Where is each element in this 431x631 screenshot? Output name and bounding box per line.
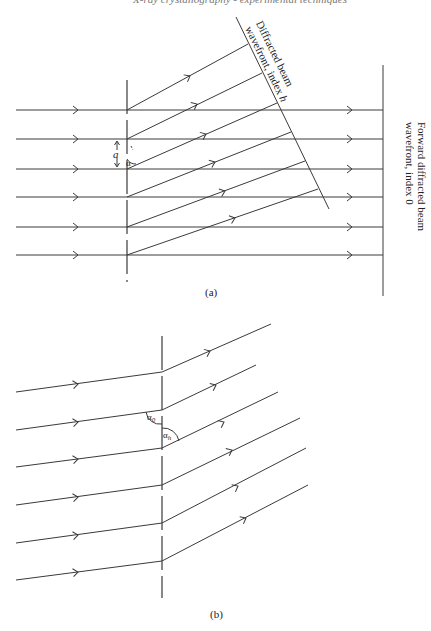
diffracted-wavefront-line [236,17,329,209]
svg-text:wavefront, index 0: wavefront, index 0 [404,122,416,205]
forward-rays [16,106,383,259]
svg-text:Forward diffracted beam: Forward diffracted beam [416,122,428,232]
caption-a: (a) [205,286,218,299]
forward-wavefront-label: Forward diffracted beam wavefront, index… [404,122,428,232]
outgoing-rays [162,324,308,561]
spacing-indicator: a [113,141,120,167]
panel-b: α0 αh (b) [16,324,308,621]
spacing-label: a [113,148,119,160]
angle-label-alpha: α [126,158,131,168]
panel-a: a α Diffracted beam wavefront, index h F… [16,17,428,299]
incoming-rays [16,372,162,580]
angle-label-alpha-0: α0 [147,412,156,424]
diagram-canvas: a α Diffracted beam wavefront, index h F… [0,0,431,631]
caption-b: (b) [210,608,223,621]
angle-label-alpha-h: αh [163,430,172,442]
